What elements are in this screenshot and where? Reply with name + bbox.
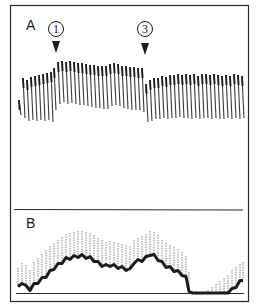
- trace-a: [19, 61, 244, 122]
- marker-1-label: 1: [48, 21, 64, 37]
- panel-label-a: A: [26, 18, 35, 32]
- figure-canvas: [0, 0, 256, 306]
- figure-border: [11, 6, 249, 302]
- figure: A B 1 3: [0, 0, 256, 306]
- marker-3-arrow-icon: [141, 43, 149, 55]
- panel-divider: [14, 210, 243, 211]
- marker-1-arrow-icon: [52, 41, 60, 53]
- trace-b: [18, 231, 243, 293]
- panel-label-b: B: [26, 216, 35, 230]
- marker-3-label: 3: [137, 21, 153, 37]
